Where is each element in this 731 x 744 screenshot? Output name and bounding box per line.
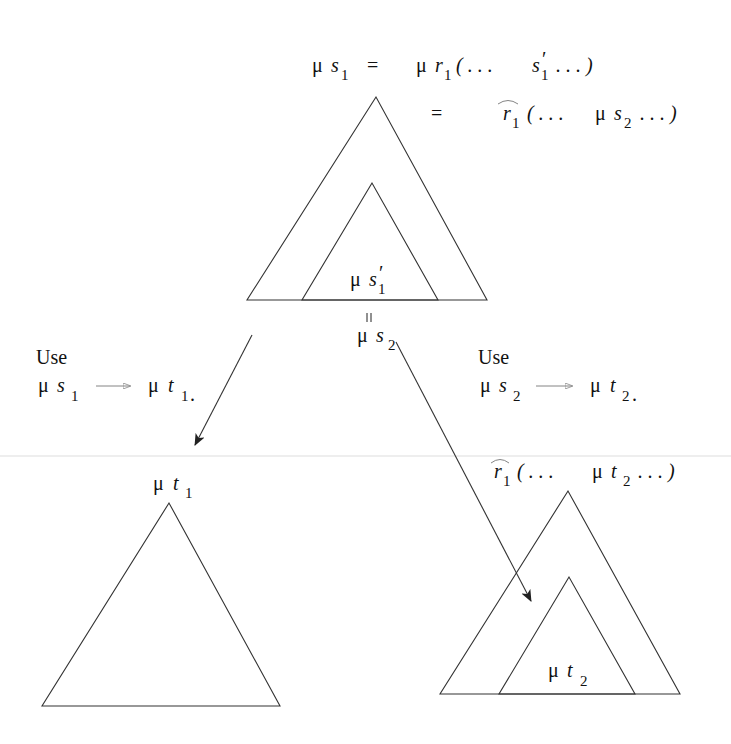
top-outer-triangle xyxy=(247,97,487,300)
bottom-right-inner-label: μ t 2 xyxy=(548,659,588,689)
mu-symbol: μ xyxy=(38,374,49,397)
period: . xyxy=(632,383,637,405)
sub-2: 2 xyxy=(622,388,630,404)
equals-sign: = xyxy=(431,102,442,124)
period: . xyxy=(190,383,195,405)
sub-2: 2 xyxy=(513,388,521,404)
open-paren-dots: ( . . . xyxy=(527,102,564,125)
sub-2: 2 xyxy=(580,673,588,689)
bottom-left-label: μ t 1 xyxy=(153,472,193,501)
mu-symbol: μ xyxy=(480,374,491,397)
sub-2: 2 xyxy=(623,473,631,489)
equals-sign: = xyxy=(367,54,378,76)
mu-symbol: μ xyxy=(592,460,603,483)
var-s: s xyxy=(57,374,65,396)
var-t: t xyxy=(567,659,573,681)
top-inner-label: μ s ′ 1 xyxy=(350,262,386,297)
top-equation-line-1: μ s 1 = μ r 1 ( . . . s ′ 1 . . . ) xyxy=(312,48,593,83)
var-t: t xyxy=(168,374,174,396)
use-label: Use xyxy=(36,346,67,368)
var-t: t xyxy=(610,374,616,396)
var-t: t xyxy=(173,472,179,494)
mu-symbol: μ xyxy=(148,374,159,397)
top-below-label: μ s 2 xyxy=(357,324,396,353)
top-equation-line-2: = r 1 ( . . . μ s 2 . . . ) xyxy=(431,101,677,132)
dots-close-paren: . . . ) xyxy=(640,102,677,125)
bottom-right-top-label: r 1 ( . . . μ t 2 . . . ) xyxy=(491,460,675,490)
mu-symbol: μ xyxy=(548,659,559,682)
rewrite-diagram: μ s 1 = μ r 1 ( . . . s ′ 1 . . . ) = r … xyxy=(0,0,731,744)
arrow-left-icon xyxy=(195,335,252,445)
right-rewrite-step: Use μ s 2 μ t 2 . xyxy=(478,346,637,405)
sub-1: 1 xyxy=(185,485,193,501)
mu-symbol: μ xyxy=(312,54,323,77)
dots-close-paren: . . . ) xyxy=(638,460,675,483)
var-t: t xyxy=(611,460,617,482)
arrow-right-icon xyxy=(396,342,531,601)
sub-2: 2 xyxy=(624,115,632,131)
var-r: r xyxy=(435,54,443,76)
mu-symbol: μ xyxy=(153,472,164,495)
dots-close-paren: . . . ) xyxy=(556,54,593,77)
mu-symbol: μ xyxy=(357,324,368,347)
var-s: s xyxy=(614,102,622,124)
mu-symbol: μ xyxy=(595,102,606,125)
var-s: s xyxy=(369,268,377,290)
sub-1: 1 xyxy=(541,67,549,83)
sub-1: 1 xyxy=(71,388,79,404)
var-s: s xyxy=(376,324,384,346)
open-paren-dots: ( . . . xyxy=(517,460,554,483)
var-s: s xyxy=(532,54,540,76)
sub-1: 1 xyxy=(444,67,452,83)
bottom-left-triangle xyxy=(42,503,280,706)
mu-symbol: μ xyxy=(350,268,361,291)
sub-2: 2 xyxy=(388,337,396,353)
open-paren-dots: ( . . . xyxy=(456,54,493,77)
sub-1: 1 xyxy=(503,473,511,489)
vertical-equals xyxy=(367,313,371,322)
use-label: Use xyxy=(478,346,509,368)
mu-symbol: μ xyxy=(590,374,601,397)
var-r-hat: r xyxy=(494,460,502,482)
mu-symbol: μ xyxy=(416,54,427,77)
left-rewrite-step: Use μ s 1 μ t 1 . xyxy=(36,346,195,405)
var-s: s xyxy=(499,374,507,396)
var-r-hat: r xyxy=(503,102,511,124)
sub-1: 1 xyxy=(512,115,520,131)
sub-1: 1 xyxy=(378,281,386,297)
var-s: s xyxy=(331,54,339,76)
sub-1: 1 xyxy=(181,388,189,404)
sub-1: 1 xyxy=(341,67,349,83)
